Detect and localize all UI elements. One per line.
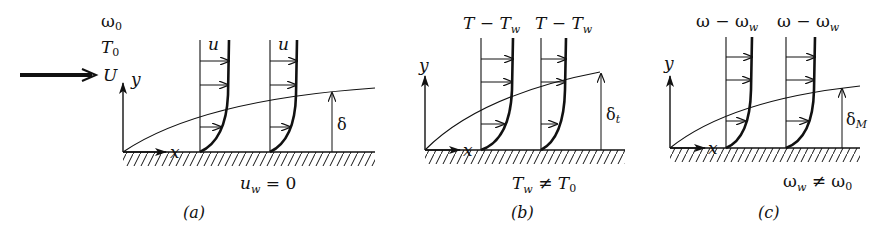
profile-label: u [278,34,289,54]
boundary-layer-diagram: ω0 T0 U y x u u δ uw = 0 (a) [0,0,889,233]
boundary-layer-edge [670,86,860,148]
x-axis-label: x [170,142,180,162]
profile-label: ω − ωw [777,11,840,34]
freestream-omega-label: ω0 [101,11,122,33]
freestream-velocity-label: U [103,65,118,85]
wall-condition: ωw ≠ ω0 [783,171,852,194]
wall-hatching [425,150,625,164]
wall-condition: Tw ≠ T0 [512,173,576,196]
panel-c: y x ω − ωw ω − ωw δM ωw ≠ ω0 (c) [663,11,868,222]
thickness-label: δM [846,110,868,131]
y-axis-label: y [130,69,141,89]
velocity-profile [200,40,229,152]
velocity-profile [270,40,297,152]
profile-label: T − Tw [535,13,593,36]
profile-label: ω − ωw [696,11,759,34]
panel-caption: (a) [183,203,205,222]
panel-a: y x u u δ uw = 0 (a) [123,34,375,222]
thickness-label: δt [606,105,621,126]
temperature-profile [481,38,513,150]
panel-b: y x T − Tw T − Tw δt Tw ≠ T0 (b) [418,13,625,222]
thickness-label: δ [337,115,347,134]
x-axis-label: x [463,140,473,160]
temperature-profile [541,38,566,150]
x-axis-label: x [708,138,718,158]
freestream-group: ω0 T0 U [20,11,122,85]
panel-caption: (c) [758,203,779,222]
y-axis-label: y [418,55,429,75]
panel-caption: (b) [511,203,534,222]
wall-hatching [670,148,860,162]
profile-label: u [208,34,219,54]
wall-condition: uw = 0 [240,173,296,196]
profile-label: T − Tw [463,13,521,36]
freestream-temp-label: T0 [101,37,119,59]
wall-hatching [123,152,375,166]
y-axis-label: y [663,53,674,73]
concentration-profile [726,37,752,148]
